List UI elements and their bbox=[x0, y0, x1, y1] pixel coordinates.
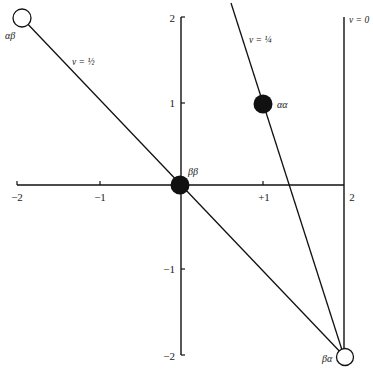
point-alpha-beta bbox=[13, 9, 31, 27]
label-v-half: v = ½ bbox=[72, 57, 95, 67]
label-beta-alpha: βα bbox=[321, 353, 333, 364]
line-v-quarter bbox=[231, 3, 342, 350]
y-tick-label-minus-1: −1 bbox=[163, 263, 175, 275]
x-tick-label-plus-1: +1 bbox=[258, 191, 270, 203]
label-alpha-alpha: αα bbox=[277, 99, 288, 110]
label-beta-beta: ββ bbox=[187, 166, 198, 177]
x-tick-label-minus-2: −2 bbox=[11, 191, 23, 203]
label-alpha-beta: αβ bbox=[5, 30, 15, 41]
point-beta-beta bbox=[171, 176, 190, 195]
diagram-figure: −2 −1 +1 2 2 1 −1 −2 αβ ββ αα βα v = ½ v… bbox=[0, 0, 373, 373]
y-tick-label-2: 2 bbox=[170, 12, 176, 24]
x-tick-label-2: 2 bbox=[349, 191, 355, 203]
label-v-quarter: v = ¼ bbox=[249, 35, 272, 45]
label-v-zero: v = 0 bbox=[349, 15, 369, 25]
point-beta-alpha bbox=[337, 349, 354, 366]
x-tick-label-minus-1: −1 bbox=[94, 191, 106, 203]
y-tick-label-1: 1 bbox=[170, 97, 176, 109]
point-alpha-alpha bbox=[254, 95, 273, 114]
y-tick-label-minus-2: −2 bbox=[163, 350, 175, 362]
